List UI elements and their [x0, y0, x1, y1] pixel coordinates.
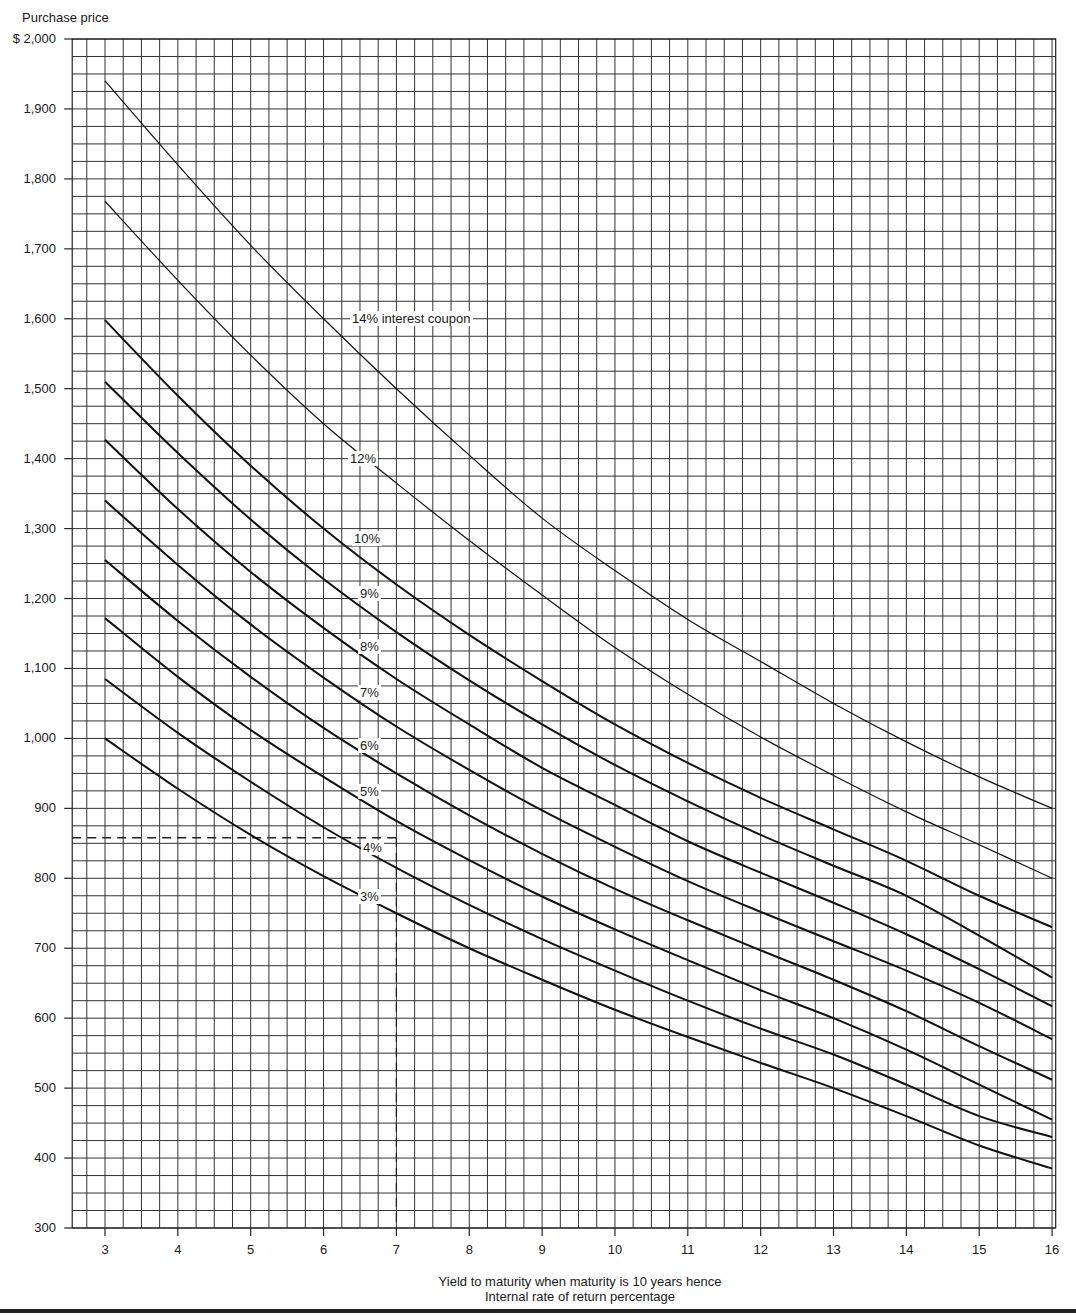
y-tick-label: 1,100 — [0, 660, 56, 675]
y-tick-label: 1,200 — [0, 591, 56, 606]
curve-label: 14% interest coupon — [350, 311, 473, 326]
y-tick-label: 1,900 — [0, 101, 56, 116]
y-tick-label: 300 — [0, 1220, 56, 1235]
y-tick-label: 1,300 — [0, 521, 56, 536]
curve-label: 7% — [358, 685, 381, 700]
curve-label: 3% — [358, 889, 381, 904]
x-tick-label: 6 — [309, 1242, 339, 1257]
curve-label: 10% — [352, 531, 382, 546]
x-tick-label: 5 — [236, 1242, 266, 1257]
x-tick-label: 12 — [746, 1242, 776, 1257]
x-tick-label: 15 — [964, 1242, 994, 1257]
y-tick-label: 1,500 — [0, 381, 56, 396]
y-tick-label: 1,400 — [0, 451, 56, 466]
y-axis-title: Purchase price — [22, 10, 109, 25]
x-tick-label: 3 — [90, 1242, 120, 1257]
x-tick-label: 16 — [1037, 1242, 1067, 1257]
y-tick-label: 900 — [0, 800, 56, 815]
curve-label: 8% — [358, 639, 381, 654]
x-tick-label: 4 — [163, 1242, 193, 1257]
y-tick-label: 400 — [0, 1150, 56, 1165]
y-tick-label: 800 — [0, 870, 56, 885]
bond-price-chart — [0, 0, 1076, 1315]
x-tick-label: 14 — [891, 1242, 921, 1257]
curve-label: 4% — [361, 840, 384, 855]
bottom-rule — [0, 1309, 1076, 1313]
x-tick-label: 10 — [600, 1242, 630, 1257]
x-tick-label: 7 — [381, 1242, 411, 1257]
y-tick-label: 1,700 — [0, 241, 56, 256]
x-tick-label: 13 — [819, 1242, 849, 1257]
x-tick-label: 8 — [454, 1242, 484, 1257]
y-tick-label: 1,600 — [0, 311, 56, 326]
x-axis-title-line1: Yield to maturity when maturity is 10 ye… — [300, 1274, 860, 1289]
y-tick-label: 1,000 — [0, 730, 56, 745]
y-tick-label: 1,800 — [0, 171, 56, 186]
curve-label: 6% — [358, 738, 381, 753]
y-tick-label: 700 — [0, 940, 56, 955]
curve-label: 9% — [358, 586, 381, 601]
x-tick-label: 11 — [673, 1242, 703, 1257]
y-tick-label: 500 — [0, 1080, 56, 1095]
curve-label: 12% — [348, 451, 378, 466]
x-axis-title: Yield to maturity when maturity is 10 ye… — [300, 1274, 860, 1304]
curve-label: 5% — [358, 784, 381, 799]
x-axis-title-line2: Internal rate of return percentage — [300, 1289, 860, 1304]
y-tick-label: 600 — [0, 1010, 56, 1025]
x-tick-label: 9 — [527, 1242, 557, 1257]
y-tick-label: $ 2,000 — [0, 31, 56, 46]
